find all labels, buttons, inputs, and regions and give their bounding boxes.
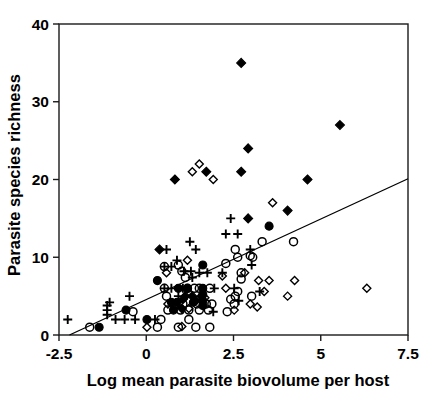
- x-tick-label: 0: [142, 345, 151, 362]
- plot-canvas: -2.502.557.5010203040 Log mean parasite …: [0, 0, 433, 396]
- data-point-filled-circle: [143, 315, 151, 323]
- x-tick-label: 2.5: [223, 345, 245, 362]
- x-axis-title: Log mean parasite biovolume per host: [87, 371, 390, 389]
- y-tick-label: 40: [32, 16, 49, 33]
- x-tick-label: -2.5: [46, 345, 73, 362]
- figure-background: [0, 0, 433, 396]
- data-point-filled-circle: [95, 323, 103, 331]
- y-tick-label: 10: [32, 249, 49, 266]
- data-point-filled-circle: [153, 277, 161, 285]
- scatter-plot-figure: -2.502.557.5010203040 Log mean parasite …: [0, 0, 433, 396]
- y-tick-label: 30: [32, 93, 49, 110]
- y-tick-label: 20: [32, 171, 49, 188]
- data-point-filled-circle: [199, 261, 207, 269]
- x-tick-label: 7.5: [397, 345, 419, 362]
- y-axis-title: Parasite species richness: [5, 74, 23, 276]
- y-tick-label: 0: [40, 327, 49, 344]
- x-tick-label: 5: [316, 345, 325, 362]
- data-point-filled-circle: [265, 222, 273, 230]
